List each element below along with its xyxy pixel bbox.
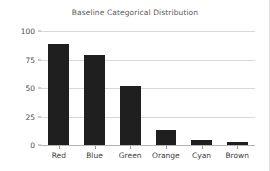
x-axis-tick-mark bbox=[59, 146, 60, 149]
y-axis-tick-label: 50 bbox=[25, 84, 35, 93]
x-axis-tick-mark bbox=[95, 146, 96, 149]
bar-group: Brown bbox=[219, 31, 255, 145]
x-axis-tick-label: Green bbox=[119, 151, 142, 160]
y-axis-tick-label: 75 bbox=[25, 55, 35, 64]
plot-area: 0255075100 RedBlueGreenOrangeCyanBrown bbox=[41, 31, 255, 145]
chart-title: Baseline Categorical Distribution bbox=[0, 8, 270, 17]
bar bbox=[48, 44, 69, 145]
bar bbox=[227, 142, 248, 145]
bar bbox=[156, 130, 177, 145]
bar bbox=[120, 86, 141, 145]
x-axis-tick-label: Red bbox=[52, 151, 66, 160]
bar-group: Red bbox=[41, 31, 77, 145]
bar-group: Blue bbox=[77, 31, 113, 145]
chart-figure: Baseline Categorical Distribution 025507… bbox=[0, 0, 270, 171]
bar-group: Orange bbox=[148, 31, 184, 145]
x-axis-tick-mark bbox=[130, 146, 131, 149]
x-axis-tick-mark bbox=[202, 146, 203, 149]
x-axis-tick-label: Brown bbox=[225, 151, 249, 160]
bar bbox=[84, 55, 105, 145]
y-axis-tick-label: 0 bbox=[30, 141, 35, 150]
gridline bbox=[41, 145, 255, 146]
x-axis-tick-mark bbox=[237, 146, 238, 149]
bar-group: Cyan bbox=[184, 31, 220, 145]
x-axis-tick-label: Orange bbox=[152, 151, 180, 160]
x-axis-tick-mark bbox=[166, 146, 167, 149]
y-axis-tick-label: 25 bbox=[25, 112, 35, 121]
bar-group: Green bbox=[112, 31, 148, 145]
x-axis-tick-label: Blue bbox=[86, 151, 103, 160]
bar bbox=[191, 140, 212, 145]
x-axis-tick-label: Cyan bbox=[192, 151, 211, 160]
bar-series: RedBlueGreenOrangeCyanBrown bbox=[41, 31, 255, 145]
y-axis-tick-label: 100 bbox=[21, 27, 35, 36]
